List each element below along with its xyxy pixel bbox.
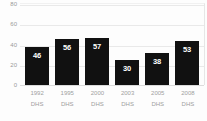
y-axis-tick-label: 40 — [10, 42, 17, 48]
x-axis-survey: DHS — [22, 99, 52, 110]
bar-value-label: 46 — [33, 52, 41, 60]
x-axis-year: 2008 — [181, 90, 194, 96]
x-axis-tick-2005: 2005 DHS — [143, 88, 173, 118]
x-axis-survey: DHS — [113, 99, 143, 110]
bar-slot: 56 — [52, 4, 82, 85]
x-axis-survey: DHS — [52, 99, 82, 110]
gridline-0 — [20, 85, 204, 86]
bar-chart: 80 60 40 20 0 46 56 57 — [0, 0, 207, 121]
y-axis: 80 60 40 20 0 — [0, 0, 20, 121]
x-axis-tick-1992: 1992 DHS — [22, 88, 52, 118]
y-axis-tick-label: 60 — [10, 21, 17, 27]
y-axis-tick-label: 0 — [14, 82, 17, 88]
x-axis-survey: DHS — [143, 99, 173, 110]
x-axis-year: 1995 — [61, 90, 74, 96]
bar-2000[interactable]: 57 — [85, 38, 109, 85]
bar-slot: 46 — [22, 4, 52, 85]
bar-2003[interactable]: 30 — [115, 60, 139, 85]
bar-slot: 30 — [112, 4, 142, 85]
x-axis-tick-1995: 1995 DHS — [52, 88, 82, 118]
bar-slot: 53 — [172, 4, 202, 85]
plot-area: 46 56 57 30 38 — [20, 3, 205, 85]
x-axis: 1992 DHS 1995 DHS 2000 DHS 2003 DHS 2005… — [20, 88, 205, 118]
x-axis-tick-2000: 2000 DHS — [82, 88, 112, 118]
bar-2005[interactable]: 38 — [145, 53, 169, 85]
x-axis-year: 1992 — [30, 90, 43, 96]
bar-value-label: 53 — [183, 46, 191, 54]
bar-slot: 57 — [82, 4, 112, 85]
bar-value-label: 30 — [123, 65, 131, 73]
x-axis-tick-2008: 2008 DHS — [173, 88, 203, 118]
y-axis-tick-label: 20 — [10, 62, 17, 68]
x-axis-survey: DHS — [173, 99, 203, 110]
x-axis-tick-2003: 2003 DHS — [113, 88, 143, 118]
y-axis-tick-label: 80 — [10, 1, 17, 7]
bar-value-label: 38 — [153, 58, 161, 66]
x-axis-year: 2000 — [91, 90, 104, 96]
bar-2008[interactable]: 53 — [175, 41, 199, 85]
x-axis-survey: DHS — [82, 99, 112, 110]
bar-value-label: 56 — [63, 44, 71, 52]
bar-1992[interactable]: 46 — [25, 47, 49, 85]
x-axis-year: 2003 — [121, 90, 134, 96]
bar-value-label: 57 — [93, 43, 101, 51]
bar-1995[interactable]: 56 — [55, 39, 79, 85]
bar-series: 46 56 57 30 38 — [20, 4, 204, 85]
x-axis-year: 2005 — [151, 90, 164, 96]
bar-slot: 38 — [142, 4, 172, 85]
